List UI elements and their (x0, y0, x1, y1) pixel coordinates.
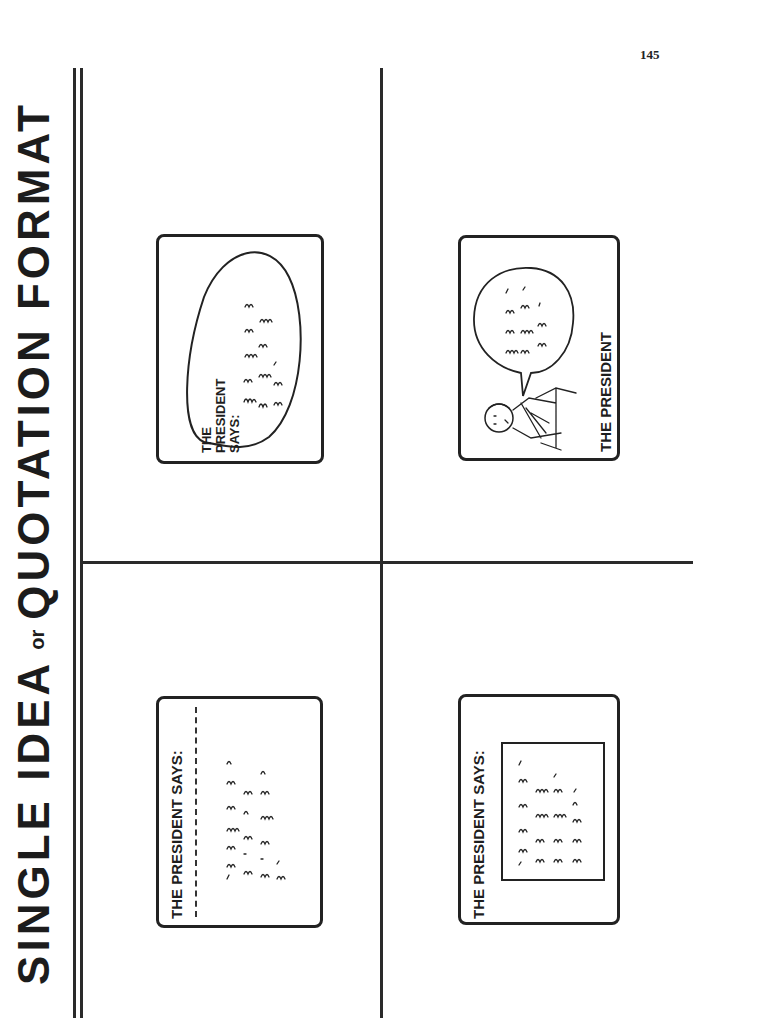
speech-ellipse-icon (187, 252, 301, 447)
president-cartoon-drawing (461, 238, 617, 458)
title-part-1: SINGLE IDEA (9, 660, 58, 985)
page-number: 145 (640, 47, 660, 63)
card-label-line-1: THE (199, 427, 214, 453)
handwriting-scribble-icon (244, 305, 282, 408)
handwriting-scribble-icon (461, 697, 617, 922)
card-ellipse-quote: THE PRESIDENT SAYS: (156, 234, 324, 464)
card-header-inset-box: THE PRESIDENT SAYS: (458, 694, 620, 925)
double-rule-left-inner (80, 68, 83, 1018)
page-title: SINGLE IDEAorQUOTATION FORMAT (14, 68, 54, 1018)
title-part-2: QUOTATION FORMAT (9, 101, 58, 620)
card-label-line-3: SAYS: (227, 414, 242, 453)
vertical-center-rule (380, 68, 383, 1018)
card-president-figure: THE PRESIDENT (458, 235, 620, 461)
handwriting-scribble-icon (506, 287, 546, 353)
speech-balloon-icon (474, 268, 573, 396)
president-figure-icon (485, 388, 576, 450)
horizontal-center-rule (82, 561, 693, 564)
handwriting-scribble-icon (159, 699, 320, 925)
card-label-line-2: PRESIDENT (213, 379, 228, 453)
double-rule-left-outer (73, 68, 76, 1018)
title-connector: or (26, 630, 48, 650)
card-label: THE PRESIDENT (597, 332, 614, 452)
card-header-dashed: THE PRESIDENT SAYS: (156, 696, 323, 928)
